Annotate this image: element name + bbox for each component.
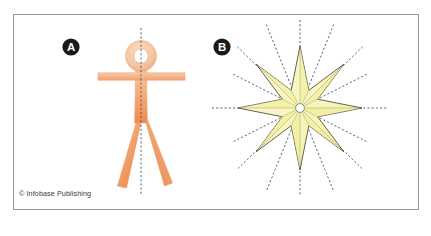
label-a-text: A: [67, 41, 75, 53]
panel-label-a: A: [62, 38, 79, 55]
panel-b-group: B: [212, 20, 388, 196]
panel-label-b: B: [213, 38, 230, 55]
eight-pointed-star: [238, 46, 362, 170]
figure-right-leg: [145, 118, 173, 186]
human-figure: [98, 41, 185, 188]
star-center-hub: [296, 104, 305, 113]
panel-a-group: A: [62, 28, 185, 196]
figure-left-leg: [118, 118, 142, 188]
illustration-canvas: A: [0, 0, 431, 236]
figure-root: A: [0, 0, 431, 236]
copyright-credit: © Infobase Publishing: [19, 189, 91, 198]
label-b-text: B: [218, 41, 226, 53]
figure-arms: [98, 73, 185, 80]
